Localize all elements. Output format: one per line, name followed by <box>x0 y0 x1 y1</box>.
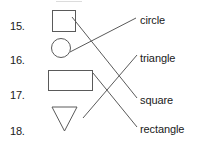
answer-label-circle: circle <box>140 14 165 26</box>
matching-worksheet: 15. 16. 17. 18. circle triangle square r… <box>0 0 197 141</box>
circle-shape-icon <box>51 38 71 58</box>
scan-crop-artifact <box>56 1 82 2</box>
line-17-to-rectangle <box>93 73 137 127</box>
diagram-overlay <box>0 0 197 141</box>
line-16-to-circle <box>70 18 136 52</box>
item-number-16: 16. <box>10 54 25 66</box>
rectangle-shape-icon <box>48 70 93 91</box>
item-number-17: 17. <box>10 89 25 101</box>
item-number-15: 15. <box>10 20 25 32</box>
triangle-down-shape-icon <box>52 107 77 131</box>
item-number-18: 18. <box>10 125 25 137</box>
answer-label-square: square <box>140 94 173 106</box>
answer-label-rectangle: rectangle <box>140 123 184 135</box>
answer-label-triangle: triangle <box>140 52 175 64</box>
square-shape-icon <box>52 10 76 32</box>
